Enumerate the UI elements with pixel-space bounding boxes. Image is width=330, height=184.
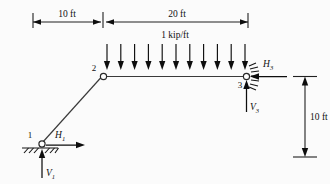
- figure-canvas: 10 ft 20 ft 1 kip/ft 2: [0, 0, 330, 184]
- load-arrow-head: [228, 61, 234, 70]
- dimension-chain-horizontal: 10 ft 20 ft: [33, 9, 248, 28]
- load-arrow-head: [214, 61, 220, 70]
- structural-diagram: 10 ft 20 ft 1 kip/ft 2: [0, 0, 330, 184]
- reaction-V1: V1: [39, 149, 55, 180]
- dimension-label-right: 20 ft: [168, 9, 186, 19]
- distributed-load-arrows: [104, 44, 248, 70]
- arrowhead-right-inward: [106, 19, 114, 25]
- pin-circle-joint-3: [243, 73, 249, 79]
- reaction-H1-head: [76, 142, 85, 149]
- joint-3-label: 3: [238, 80, 243, 90]
- joint-1-label: 1: [28, 130, 33, 140]
- reaction-V3: V3: [243, 80, 260, 114]
- arrowhead-left-inward: [93, 19, 101, 25]
- hinge-circle-joint-2: [100, 73, 106, 79]
- reaction-H3-head: [250, 73, 259, 80]
- load-arrow-head: [201, 61, 207, 70]
- load-arrow-head: [173, 61, 179, 70]
- reaction-H3: H3: [250, 59, 287, 80]
- joint-2: 2: [92, 63, 107, 80]
- arrowhead-vertical-bottom: [302, 148, 308, 157]
- load-arrow-head: [104, 61, 110, 70]
- dimension-10ft-left: 10 ft: [33, 9, 101, 25]
- joint-2-label: 2: [92, 63, 97, 73]
- load-arrow-head: [145, 61, 151, 70]
- load-arrow-head: [159, 61, 165, 70]
- load-arrow-head: [242, 61, 248, 70]
- member-1-2: [42, 78, 101, 144]
- reaction-V1-label: V1: [46, 168, 55, 180]
- dimension-label-vertical: 10 ft: [310, 112, 328, 122]
- structure-members: [42, 77, 245, 144]
- load-arrow-head: [118, 61, 124, 70]
- reaction-H1-label: H1: [54, 130, 65, 142]
- arrowhead-left-outward: [33, 19, 41, 25]
- reaction-H3-label: H3: [262, 59, 274, 71]
- reaction-V3-head: [243, 80, 249, 89]
- load-arrow-head: [132, 61, 138, 70]
- reaction-V3-label: V3: [250, 102, 260, 114]
- load-arrow-head: [187, 61, 193, 70]
- arrowhead-vertical-top: [302, 77, 308, 86]
- dimension-20ft-right: 20 ft: [106, 9, 248, 25]
- reaction-V1-head: [39, 149, 45, 158]
- dimension-vertical-right: 10 ft: [293, 77, 328, 158]
- arrowhead-right-outward: [240, 19, 248, 25]
- distributed-load-label: 1 kip/ft: [161, 30, 189, 40]
- dimension-label-left: 10 ft: [58, 9, 76, 19]
- joint-1-support: 1: [22, 130, 59, 153]
- pin-circle-joint-1: [39, 141, 45, 147]
